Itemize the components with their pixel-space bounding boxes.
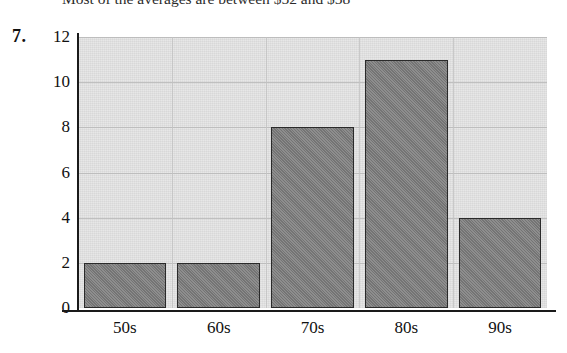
- bar-90s: [459, 218, 542, 308]
- y-axis-line: [77, 33, 79, 312]
- y-tick-label-8: 8: [40, 118, 70, 135]
- bar-70s: [271, 127, 354, 308]
- bar-slot-50s: [78, 37, 172, 308]
- y-tick-label-12: 12: [40, 28, 70, 45]
- x-tick-label-90s: 90s: [453, 315, 547, 343]
- bar-slot-70s: [266, 37, 360, 308]
- x-axis-line: [62, 310, 556, 312]
- y-tick-label-10: 10: [40, 73, 70, 90]
- bar-series: [78, 37, 547, 308]
- x-tick-label-50s: 50s: [78, 315, 172, 343]
- y-tick-label-0: 0: [40, 299, 70, 316]
- top-sentence: Most of the averages are between $52 and…: [62, 0, 482, 7]
- y-tick-label-6: 6: [40, 164, 70, 181]
- bar-slot-90s: [453, 37, 547, 308]
- bar-chart: [78, 37, 547, 308]
- x-axis-tick-labels: 50s60s70s80s90s: [78, 315, 547, 343]
- bar-60s: [177, 263, 260, 308]
- bar-slot-80s: [359, 37, 453, 308]
- bar-80s: [365, 60, 448, 308]
- x-tick-label-60s: 60s: [172, 315, 266, 343]
- x-tick-label-80s: 80s: [359, 315, 453, 343]
- y-tick-label-2: 2: [40, 254, 70, 271]
- y-tick-label-4: 4: [40, 209, 70, 226]
- y-axis-tick-labels: 024681012: [38, 37, 70, 308]
- bar-slot-60s: [172, 37, 266, 308]
- problem-number: 7.: [12, 26, 27, 47]
- x-tick-label-70s: 70s: [266, 315, 360, 343]
- bar-50s: [84, 263, 167, 308]
